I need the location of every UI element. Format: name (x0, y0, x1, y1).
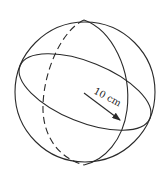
sphere-outline (15, 22, 155, 162)
equator-ellipse (9, 38, 161, 146)
radius-label: 10 cm (92, 85, 123, 109)
meridian-back-dashed (43, 20, 84, 165)
sphere-diagram: 10 cm (0, 0, 168, 179)
